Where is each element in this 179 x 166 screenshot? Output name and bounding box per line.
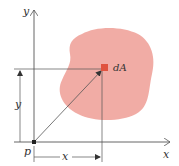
x-axis-label: x bbox=[163, 148, 170, 161]
area-element-diagram: y x p dA y x bbox=[0, 0, 179, 166]
origin-point bbox=[32, 140, 36, 144]
x-dimension-label: x bbox=[62, 150, 69, 163]
planar-region bbox=[60, 28, 154, 120]
y-axis-label: y bbox=[22, 5, 30, 18]
area-element-square bbox=[101, 64, 108, 71]
element-label: dA bbox=[113, 62, 127, 73]
origin-label: p bbox=[24, 145, 31, 158]
y-dimension-label: y bbox=[14, 98, 22, 111]
